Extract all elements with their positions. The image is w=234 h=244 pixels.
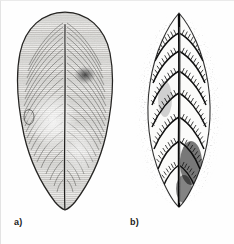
- specimen-a-drawing: [13, 9, 117, 213]
- figure-label-a: a): [14, 218, 22, 227]
- figure-label-b: b): [130, 218, 139, 227]
- specimen-b-drawing: [129, 7, 229, 213]
- fossil-leaf-specimen-b: [129, 7, 229, 213]
- fossil-leaf-figure-plate: a) b): [0, 0, 234, 244]
- fossil-leaf-specimen-a: [13, 9, 117, 213]
